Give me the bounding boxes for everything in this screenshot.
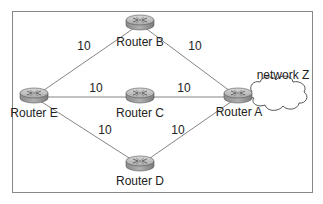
router-icon (20, 88, 48, 103)
link-cost-label: 10 (188, 39, 202, 53)
network-z-label: network Z (257, 68, 310, 82)
router-label: Router B (116, 35, 163, 49)
router-icon (224, 88, 252, 103)
link-cost-label: 10 (89, 81, 103, 95)
router-icon (126, 156, 154, 171)
link-cost-label: 10 (77, 39, 91, 53)
router-label: Router D (116, 174, 164, 188)
router-label: Router E (10, 106, 57, 120)
link-cost-label: 10 (177, 81, 191, 95)
router-icon (126, 15, 154, 30)
network-diagram: Router BRouter ERouter CRouter ARouter D… (0, 0, 323, 204)
link-cost-label: 10 (171, 123, 185, 137)
router-icon (126, 88, 154, 103)
router-label: Router C (116, 106, 164, 120)
router-label: Router A (216, 105, 263, 119)
link-cost-label: 10 (98, 123, 112, 137)
